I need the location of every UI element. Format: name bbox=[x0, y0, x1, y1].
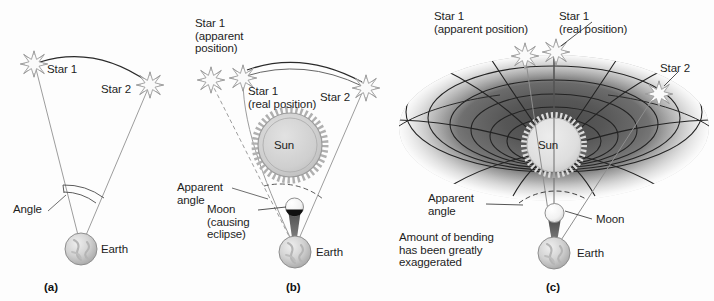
earth-globe-b bbox=[279, 236, 311, 268]
label-earth-a: Earth bbox=[101, 243, 128, 256]
label-exaggeration-note-c: Amount of bending has been greatly exagg… bbox=[399, 231, 494, 269]
panel-tag-b: (b) bbox=[286, 281, 301, 293]
diagram-canvas bbox=[0, 0, 714, 301]
label-sun-b: Sun bbox=[274, 139, 294, 152]
star1-glyph-a bbox=[20, 51, 48, 78]
panel-tag-a: (a) bbox=[44, 281, 58, 293]
label-star1-apparent-c: Star 1 (apparent position) bbox=[434, 10, 528, 35]
label-earth-c: Earth bbox=[577, 247, 604, 260]
star2-glyph-c bbox=[645, 81, 673, 108]
label-sun-c: Sun bbox=[538, 139, 558, 152]
star1-apparent-glyph-c bbox=[511, 43, 539, 70]
panel-tag-c: (c) bbox=[546, 281, 560, 293]
sightline-earth-star2-a bbox=[81, 84, 150, 247]
star2-glyph-b bbox=[352, 75, 380, 102]
label-star1-real-c: Star 1 (real position) bbox=[559, 10, 627, 35]
sightline-earth-star1-a bbox=[35, 65, 81, 247]
angle-tick-a bbox=[63, 185, 64, 193]
sky-arc-inner-b bbox=[246, 69, 362, 86]
label-moon-c: Moon bbox=[596, 213, 624, 226]
apparent-angle-leader-c bbox=[486, 204, 523, 205]
apparent-angle-leader-b bbox=[232, 188, 268, 199]
panel-a-graphics bbox=[20, 51, 164, 266]
label-moon-b: Moon (causing eclipse) bbox=[207, 203, 250, 241]
angle-leader-a bbox=[48, 195, 66, 211]
label-star2-a: Star 2 bbox=[101, 83, 131, 96]
gravitational-lensing-figure: Star 1 Star 2 Angle Earth (a) Star 1 (ap… bbox=[0, 0, 714, 301]
label-star1-a: Star 1 bbox=[47, 63, 77, 76]
moon-leader-b bbox=[258, 207, 286, 210]
star1-apparent-glyph-b bbox=[197, 67, 225, 94]
earth-globe-c bbox=[538, 237, 570, 269]
label-earth-b: Earth bbox=[316, 246, 343, 259]
label-star2-c: Star 2 bbox=[660, 62, 690, 75]
label-angle-a: Angle bbox=[13, 203, 42, 216]
label-apparent-angle-c: Apparent angle bbox=[428, 192, 474, 217]
moon-leader-c bbox=[565, 211, 592, 219]
star2-glyph-a bbox=[136, 72, 164, 99]
earth-globe-a bbox=[65, 233, 97, 265]
label-star1-real-b: Star 1 (real position) bbox=[248, 85, 316, 110]
label-star1-apparent-b: Star 1 (apparent position) bbox=[195, 17, 243, 55]
label-star2-b: Star 2 bbox=[320, 91, 350, 104]
